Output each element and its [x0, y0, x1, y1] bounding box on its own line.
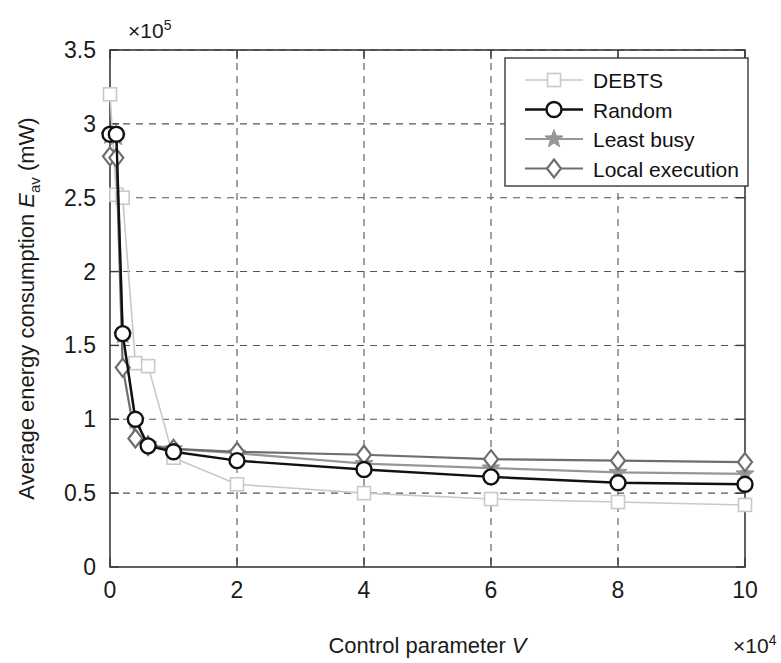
- square-marker: [739, 498, 752, 511]
- circle-marker: [128, 412, 143, 427]
- y-axis-exponent: ×105: [128, 17, 172, 42]
- square-marker: [548, 74, 561, 87]
- circle-marker: [141, 438, 156, 453]
- data-marker-circle: [128, 412, 143, 427]
- data-marker-circle: [115, 326, 130, 341]
- circle-marker: [484, 469, 499, 484]
- chart-canvas: 00.511.522.533.50246810×105×104Control p…: [0, 0, 781, 663]
- x-exponent-label: ×104: [733, 632, 777, 657]
- data-marker-circle: [357, 462, 372, 477]
- y-tick-label: 2: [83, 259, 96, 285]
- data-marker-square: [104, 88, 117, 101]
- diamond-marker: [738, 453, 752, 471]
- data-marker-square: [358, 487, 371, 500]
- data-marker-square: [142, 360, 155, 373]
- data-marker-circle: [141, 438, 156, 453]
- x-tick-label: 8: [612, 577, 625, 603]
- data-marker-circle: [484, 469, 499, 484]
- x-tick-label: 10: [732, 577, 758, 603]
- y-tick-label: 0: [83, 554, 96, 580]
- data-marker-square: [485, 493, 498, 506]
- circle-marker: [230, 453, 245, 468]
- y-exponent-label: ×105: [128, 17, 172, 42]
- square-marker: [612, 496, 625, 509]
- square-marker: [231, 478, 244, 491]
- y-axis-title: Average energy consumption Eav (mW): [14, 117, 43, 499]
- data-marker-square: [612, 496, 625, 509]
- data-marker-square: [548, 74, 561, 87]
- circle-marker: [115, 326, 130, 341]
- data-marker-square: [739, 498, 752, 511]
- data-marker-diamond: [611, 452, 625, 470]
- square-marker: [358, 487, 371, 500]
- x-tick-label: 0: [104, 577, 117, 603]
- circle-marker: [109, 127, 124, 142]
- data-marker-circle: [738, 477, 753, 492]
- diamond-marker: [611, 452, 625, 470]
- data-marker-circle: [166, 444, 181, 459]
- square-marker: [485, 493, 498, 506]
- y-tick-label: 3: [83, 111, 96, 137]
- circle-marker: [547, 102, 562, 117]
- data-marker-circle: [109, 127, 124, 142]
- y-tick-label: 1: [83, 406, 96, 432]
- legend-item-label: Local execution: [593, 158, 739, 181]
- x-axis-exponent: ×104: [733, 632, 777, 657]
- legend-item-label: Least busy: [593, 128, 695, 151]
- chart-figure: 00.511.522.533.50246810×105×104Control p…: [0, 0, 781, 663]
- circle-marker: [166, 444, 181, 459]
- data-marker-circle: [547, 102, 562, 117]
- series-local-execution: [103, 147, 752, 471]
- data-marker-square: [231, 478, 244, 491]
- chart-legend: DEBTSRandomLeast busyLocal execution: [505, 58, 748, 186]
- circle-marker: [611, 475, 626, 490]
- y-tick-label: 1.5: [64, 332, 96, 358]
- series-line: [110, 156, 745, 462]
- y-tick-label: 3.5: [64, 37, 96, 63]
- data-marker-diamond: [738, 453, 752, 471]
- x-tick-label: 4: [358, 577, 371, 603]
- circle-marker: [738, 477, 753, 492]
- square-marker: [142, 360, 155, 373]
- y-tick-label: 0.5: [64, 480, 96, 506]
- x-axis-title: Control parameter V: [328, 633, 528, 658]
- series-line: [110, 134, 745, 484]
- legend-item-label: Random: [593, 99, 672, 122]
- circle-marker: [357, 462, 372, 477]
- legend-item-label: DEBTS: [593, 69, 663, 92]
- data-marker-circle: [611, 475, 626, 490]
- square-marker: [104, 88, 117, 101]
- x-tick-label: 2: [231, 577, 244, 603]
- x-tick-label: 6: [485, 577, 498, 603]
- y-tick-label: 2.5: [64, 185, 96, 211]
- data-marker-circle: [230, 453, 245, 468]
